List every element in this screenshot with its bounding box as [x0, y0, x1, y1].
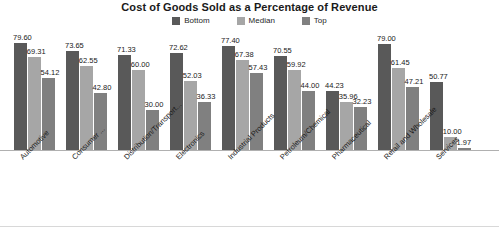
- bar-group: 50.7710.001.97: [430, 36, 471, 151]
- legend-item-bottom[interactable]: Bottom: [172, 16, 209, 25]
- bar-value-label: 71.33: [117, 46, 136, 54]
- legend-swatch-icon: [237, 17, 245, 25]
- chart-legend: BottomMedianTop: [0, 16, 499, 25]
- legend-item-top[interactable]: Top: [302, 16, 327, 25]
- bar[interactable]: [198, 102, 211, 151]
- bar-value-label: 42.80: [93, 84, 112, 92]
- bar-value-label: 67.38: [235, 51, 254, 59]
- bar[interactable]: [94, 93, 107, 151]
- chart-title: Cost of Goods Sold as a Percentage of Re…: [0, 1, 499, 13]
- bar-value-label: 30.00: [145, 101, 164, 109]
- bar-value-label: 59.92: [287, 61, 306, 69]
- bar-value-label: 62.55: [79, 57, 98, 65]
- bar-value-label: 44.23: [325, 82, 344, 90]
- legend-item-median[interactable]: Median: [237, 16, 275, 25]
- x-axis-tick-labels: AutomotiveConsumer ...Distribution/Trans…: [0, 151, 499, 230]
- bar-value-label: 60.00: [131, 61, 150, 69]
- legend-item-label: Median: [249, 16, 275, 25]
- legend-item-label: Top: [314, 16, 327, 25]
- bar-value-label: 57.43: [249, 64, 268, 72]
- bar-value-label: 52.03: [183, 72, 202, 80]
- bar-value-label: 79.00: [377, 35, 396, 43]
- bar[interactable]: [222, 46, 235, 151]
- bar-value-label: 44.00: [301, 82, 320, 90]
- bar-value-label: 77.40: [221, 37, 240, 45]
- bar[interactable]: [66, 51, 79, 151]
- bar[interactable]: [274, 56, 287, 151]
- bar-value-label: 47.21: [405, 78, 424, 86]
- bar[interactable]: [14, 43, 27, 151]
- bar-value-label: 70.55: [273, 47, 292, 55]
- bar[interactable]: [326, 91, 339, 151]
- bar-value-label: 72.62: [169, 44, 188, 52]
- chart-container: Cost of Goods Sold as a Percentage of Re…: [0, 0, 499, 230]
- legend-swatch-icon: [302, 17, 310, 25]
- bar-value-label: 73.65: [65, 42, 84, 50]
- legend-item-label: Bottom: [184, 16, 209, 25]
- bar-value-label: 69.31: [27, 48, 46, 56]
- bar-value-label: 36.33: [197, 93, 216, 101]
- bar-value-label: 54.12: [41, 69, 60, 77]
- legend-swatch-icon: [172, 17, 180, 25]
- bar[interactable]: [378, 44, 391, 151]
- bar-value-label: 79.60: [13, 34, 32, 42]
- bar-value-label: 61.45: [391, 59, 410, 67]
- bar-value-label: 32.23: [353, 98, 372, 106]
- bar-value-label: 50.77: [429, 73, 448, 81]
- bar[interactable]: [118, 55, 131, 152]
- chart-bottom-rule: [0, 226, 499, 227]
